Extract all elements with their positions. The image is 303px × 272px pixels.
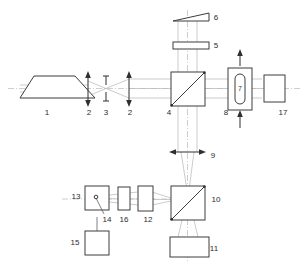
callout-13: 13 — [72, 192, 81, 201]
callout-11: 11 — [210, 244, 219, 253]
wedge-mirror — [173, 13, 209, 21]
callout-5: 5 — [214, 41, 219, 50]
callout-16: 16 — [120, 215, 129, 224]
callout-12: 12 — [144, 215, 153, 224]
beam-expander-lens-back — [126, 71, 132, 107]
flow-arrow-in-icon — [237, 110, 243, 128]
callout-8: 8 — [224, 108, 229, 117]
end-detector-right — [264, 75, 285, 102]
callout-labels: 1 2 3 2 4 5 6 7 8 9 10 11 12 13 14 15 16… — [45, 13, 288, 253]
callout-7: 7 — [238, 85, 242, 92]
filter-plate — [118, 187, 130, 210]
callout-10: 10 — [212, 195, 221, 204]
beamsplitter-cube-lower — [170, 185, 205, 220]
callout-3: 3 — [104, 108, 109, 117]
callout-17: 17 — [279, 108, 288, 117]
waveplate-plate — [173, 42, 209, 49]
flow-arrow-out-icon — [237, 49, 243, 66]
callout-4: 4 — [167, 108, 172, 117]
callout-15: 15 — [71, 238, 80, 247]
callout-9: 9 — [211, 151, 216, 160]
beamsplitter-cube-upper — [171, 72, 206, 107]
optical-diagram: 1 2 3 2 4 5 6 7 8 9 10 11 12 13 14 15 16… — [0, 0, 303, 272]
callout-2a: 2 — [87, 108, 92, 117]
focusing-lens-left — [138, 186, 153, 211]
callout-1: 1 — [45, 108, 50, 117]
detector-wide — [170, 237, 209, 257]
optical-schematic-svg: 1 2 3 2 4 5 6 7 8 9 10 11 12 13 14 15 16… — [0, 0, 303, 272]
laser-source-trapezoid — [20, 76, 95, 98]
callout-2b: 2 — [128, 108, 133, 117]
callout-6: 6 — [214, 13, 219, 22]
callout-14: 14 — [103, 215, 112, 224]
